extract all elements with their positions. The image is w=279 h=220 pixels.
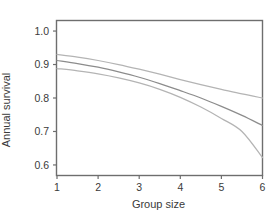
x-tick-label: 1 xyxy=(54,181,60,193)
plot-frame-rect xyxy=(57,21,263,176)
x-axis-title: Group size xyxy=(0,198,279,210)
y-axis-title: Annual survival xyxy=(0,0,14,220)
plot-frame xyxy=(57,21,263,176)
x-axis-ticks: 123456 xyxy=(54,175,266,193)
y-tick-label: 0.8 xyxy=(34,92,49,104)
x-tick-label: 3 xyxy=(136,181,142,193)
figure-container: 0.60.70.80.91.0 123456 Annual survival G… xyxy=(0,0,279,220)
x-axis-title-text: Group size xyxy=(132,198,185,210)
y-tick-label: 0.9 xyxy=(34,58,49,70)
y-axis-ticks: 0.60.70.80.91.0 xyxy=(34,25,57,171)
x-tick-label: 4 xyxy=(177,181,183,193)
chart-canvas: 0.60.70.80.91.0 123456 xyxy=(0,0,279,220)
series-line xyxy=(57,54,263,98)
series-line xyxy=(57,61,263,126)
y-tick-label: 1.0 xyxy=(34,25,49,37)
x-tick-label: 2 xyxy=(95,181,101,193)
chart-series-group xyxy=(57,54,263,157)
x-tick-label: 6 xyxy=(260,181,266,193)
y-tick-label: 0.7 xyxy=(34,125,49,137)
series-line xyxy=(57,69,263,158)
y-tick-label: 0.6 xyxy=(34,159,49,171)
x-tick-label: 5 xyxy=(218,181,224,193)
